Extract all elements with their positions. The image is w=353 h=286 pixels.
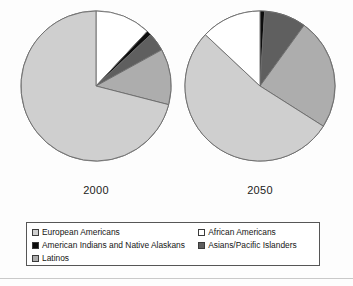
legend-item-label: Latinos (42, 254, 69, 263)
legend-item-label: Asians/Pacific Islanders (208, 241, 296, 250)
legend-item-african-americans: African Americans (198, 226, 315, 239)
legend-row: Latinos (32, 252, 315, 265)
year-label-2050: 2050 (225, 184, 295, 196)
legend-item-empty (198, 252, 315, 265)
pie-2000-svg (18, 8, 174, 164)
legend-item-american-indians: American Indians and Native Alaskans (32, 239, 198, 252)
legend-item-european-americans: European Americans (32, 226, 198, 239)
african-swatch-icon (198, 229, 205, 236)
legend-row: European Americans African Americans (32, 226, 315, 239)
pie-chart-figure: 2000 2050 European Americans African Ame… (0, 0, 353, 286)
pie-chart-2050 (182, 8, 338, 164)
legend-row: American Indians and Native Alaskans Asi… (32, 239, 315, 252)
european-swatch-icon (32, 229, 39, 236)
pie-2000-slices (21, 11, 171, 161)
latino-swatch-icon (32, 255, 39, 262)
pie-2050-svg (182, 8, 338, 164)
pie-chart-2000 (18, 8, 174, 164)
legend-item-label: European Americans (42, 228, 120, 237)
legend-item-latinos: Latinos (32, 252, 198, 265)
asian-swatch-icon (198, 242, 205, 249)
chart-legend: European Americans African Americans Ame… (26, 222, 320, 266)
year-label-2000: 2000 (61, 184, 131, 196)
indian-swatch-icon (32, 242, 39, 249)
pie-2050-slices (185, 11, 335, 161)
legend-item-label: African Americans (208, 228, 276, 237)
bottom-divider (0, 278, 353, 279)
legend-item-asians-pacific-islanders: Asians/Pacific Islanders (198, 239, 315, 252)
legend-item-label: American Indians and Native Alaskans (42, 241, 185, 250)
